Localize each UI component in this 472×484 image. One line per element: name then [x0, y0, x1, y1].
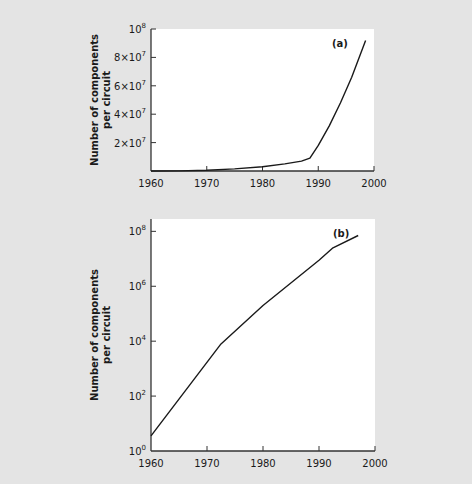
x-tick-label: 1990 — [306, 178, 331, 189]
figure: 196019701980199020002×1074×1076×1078×107… — [0, 0, 472, 484]
x-tick-label: 1980 — [250, 178, 275, 189]
x-tick-label: 2000 — [362, 458, 387, 469]
y-axis-title: Number of componentsper circuit — [89, 269, 112, 401]
moores-law-figure: 196019701980199020002×1074×1076×1078×107… — [0, 0, 472, 484]
panel-label: (a) — [332, 38, 348, 49]
panel-label: (b) — [333, 228, 349, 239]
y-tick-label: 4×107 — [114, 107, 146, 120]
x-tick-label: 1970 — [194, 178, 219, 189]
y-tick-label: 104 — [129, 334, 147, 347]
x-tick-label: 1960 — [138, 178, 163, 189]
y-tick-label: 108 — [129, 22, 146, 35]
y-tick-label: 100 — [129, 444, 146, 457]
y-tick-label: 106 — [129, 279, 147, 292]
x-tick-label: 1980 — [250, 458, 275, 469]
x-tick-label: 1960 — [138, 458, 163, 469]
y-tick-label: 2×107 — [114, 136, 146, 149]
plot-area — [151, 29, 374, 171]
y-tick-label: 108 — [129, 224, 146, 237]
plot-area — [151, 219, 375, 451]
x-tick-label: 1990 — [306, 458, 331, 469]
chart-panel-b: 19601970198019902000100102104106108Numbe… — [89, 219, 388, 469]
y-tick-label: 8×107 — [114, 50, 146, 63]
chart-panel-a: 196019701980199020002×1074×1076×1078×107… — [89, 22, 387, 189]
y-axis-title: Number of componentsper circuit — [89, 34, 112, 166]
x-tick-label: 1970 — [194, 458, 219, 469]
x-tick-label: 2000 — [361, 178, 386, 189]
y-tick-label: 6×107 — [114, 79, 146, 92]
y-tick-label: 102 — [129, 389, 146, 402]
